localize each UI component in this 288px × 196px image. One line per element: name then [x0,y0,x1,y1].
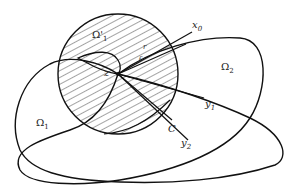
label-epsilon: ε [139,55,143,62]
label-r: r [143,44,146,51]
label-y1: y1 [205,99,215,112]
label-x0: x0 [192,20,202,33]
diagram-figure [0,0,288,196]
label-y2: y2 [181,138,191,151]
point-z [116,72,120,76]
label-z: z [104,68,109,78]
label-c: C [168,124,176,134]
label-omega-2: Ω2 [221,62,234,75]
label-omega-prime-1: Ω'1 [92,30,108,43]
label-omega-1: Ω1 [36,118,49,131]
